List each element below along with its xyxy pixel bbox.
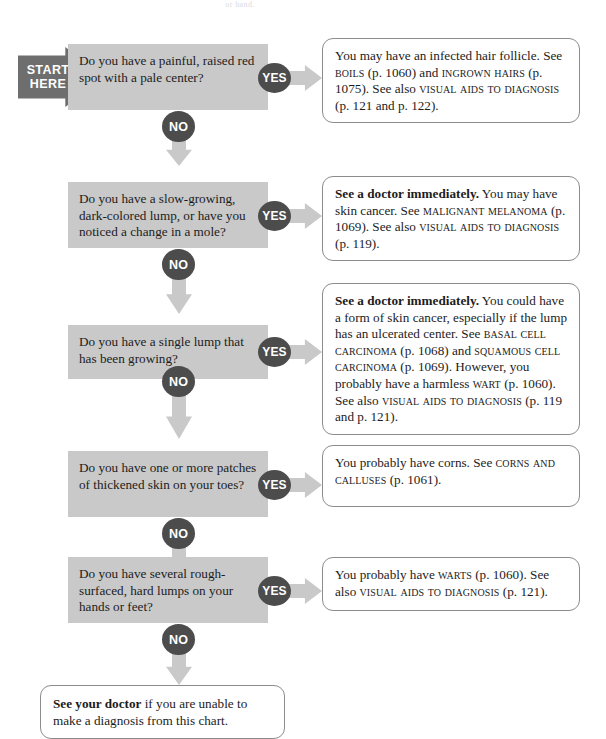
text-run: You probably have corns. See <box>335 455 496 470</box>
final-advice-box: See your doctor if you are unable to mak… <box>40 685 285 739</box>
text-emphasis: See a doctor immediately. <box>335 186 479 201</box>
yes-badge-5[interactable]: YES <box>258 576 291 606</box>
text-run: (p. 1060) and <box>364 65 441 80</box>
question-box-5: Do you have several rough-surfaced, hard… <box>68 557 268 623</box>
text-run: (p. 121). <box>500 584 548 599</box>
answer-box-4: You probably have corns. See corns and c… <box>322 445 580 507</box>
cross-reference: visual aids to diagnosis <box>419 81 559 96</box>
question-box-2: Do you have a slow-growing, dark-colored… <box>68 182 268 248</box>
text-run: You probably have <box>335 567 438 582</box>
question-text: Do you have a slow-growing, dark-colored… <box>79 191 246 239</box>
cross-reference: visual aids to diagnosis <box>419 219 559 234</box>
cross-reference: malignant melanoma <box>423 203 548 218</box>
question-box-4: Do you have one or more patches of thick… <box>68 451 268 517</box>
yes-badge-2[interactable]: YES <box>258 201 291 231</box>
yes-badge-4[interactable]: YES <box>258 470 291 500</box>
text-emphasis: See a doctor immediately. <box>335 293 479 308</box>
text-run: (p. 119). <box>335 236 380 251</box>
text-run: (p. 1061). <box>386 472 441 487</box>
cross-reference: boils <box>335 65 364 80</box>
start-here-label-line1: START <box>27 63 70 77</box>
text-run: (p. 121 and p. 122). <box>335 98 439 113</box>
no-badge-2[interactable]: NO <box>162 249 195 280</box>
question-text: Do you have a single lump that has been … <box>79 334 244 366</box>
cross-reference: ingrown hairs <box>442 65 525 80</box>
start-here-label-line2: HERE <box>30 77 66 91</box>
question-box-1: Do you have a painful, raised red spot w… <box>68 44 268 110</box>
cross-reference: visual aids to diagnosis <box>360 584 500 599</box>
question-text: Do you have several rough-surfaced, hard… <box>79 566 233 614</box>
answer-box-2: See a doctor immediately. You may have s… <box>322 176 580 261</box>
yes-badge-1[interactable]: YES <box>258 63 291 93</box>
text-run: You may have an infected hair follicle. … <box>335 48 562 63</box>
cross-reference: wart <box>473 376 501 391</box>
no-badge-4[interactable]: NO <box>162 518 195 549</box>
text-run: (p. 1068) and <box>397 343 474 358</box>
cropped-header-text: or hand. <box>150 0 330 9</box>
question-text: Do you have one or more patches of thick… <box>79 460 256 492</box>
no-badge-5[interactable]: NO <box>162 624 195 655</box>
question-text: Do you have a painful, raised red spot w… <box>79 53 254 85</box>
text-emphasis: See your doctor <box>53 696 141 711</box>
answer-box-1: You may have an infected hair follicle. … <box>322 38 580 123</box>
cross-reference: visual aids to diagnosis <box>382 393 522 408</box>
answer-box-3: See a doctor immediately. You could have… <box>322 283 580 435</box>
no-badge-1[interactable]: NO <box>162 111 195 142</box>
no-badge-3[interactable]: NO <box>162 366 195 397</box>
cross-reference: warts <box>438 567 472 582</box>
yes-badge-3[interactable]: YES <box>258 337 291 367</box>
answer-box-5: You probably have warts (p. 1060). See a… <box>322 557 580 611</box>
